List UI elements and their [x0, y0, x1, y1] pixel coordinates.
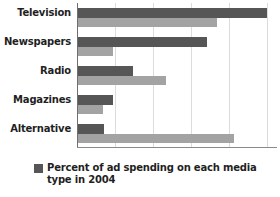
category-label-television: Television [17, 7, 71, 18]
legend-label-line1: Percent of ad spending on each media [47, 162, 256, 173]
category-label-magazines: Magazines [13, 94, 71, 105]
plot-area [77, 3, 277, 148]
legend-swatch-icon [34, 164, 43, 173]
bar-alternative-series2 [77, 134, 234, 143]
bar-newspapers-series2 [77, 47, 113, 56]
category-label-newspapers: Newspapers [4, 36, 71, 47]
bar-newspapers-series1 [77, 37, 207, 47]
gridline-5 [267, 3, 268, 148]
category-label-radio: Radio [40, 65, 71, 76]
bar-alternative-series1 [77, 124, 104, 134]
bar-radio-series1 [77, 66, 133, 76]
bar-magazines-series2 [77, 105, 103, 114]
category-label-alternative: Alternative [10, 123, 71, 134]
legend-label: Percent of ad spending on each media typ… [47, 162, 266, 186]
gridline-4 [229, 3, 230, 148]
y-axis-line [77, 3, 78, 148]
bar-television-series2 [77, 18, 217, 27]
x-axis-line [77, 147, 277, 148]
legend-label-line2: type in 2004 [47, 174, 115, 185]
chart-legend: Percent of ad spending on each media typ… [34, 162, 266, 186]
bar-radio-series2 [77, 76, 166, 85]
bar-chart: Television Newspapers Radio Magazines Al… [0, 0, 280, 197]
bar-magazines-series1 [77, 95, 113, 105]
bar-television-series1 [77, 8, 267, 18]
category-axis-labels: Television Newspapers Radio Magazines Al… [0, 3, 74, 148]
